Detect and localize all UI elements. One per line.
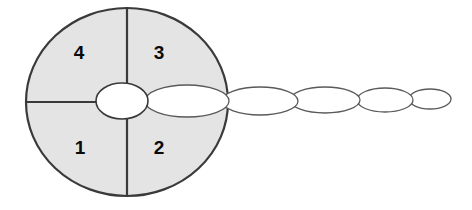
tail-segment-5 (409, 89, 451, 109)
quadrant-circle-diagram: 4 3 1 2 (0, 0, 472, 210)
quadrant-label-1: 1 (75, 137, 86, 158)
quadrant-label-2: 2 (154, 137, 165, 158)
tail-segment-1 (145, 85, 229, 117)
tail-segment-2 (222, 87, 298, 115)
tail-segment-4 (357, 88, 413, 112)
tail-segment-group (145, 85, 451, 117)
quadrant-label-3: 3 (154, 42, 165, 63)
quadrant-label-4: 4 (74, 42, 85, 63)
tail-segment-3 (290, 87, 360, 113)
diagram-root: 4 3 1 2 (0, 0, 472, 210)
center-node-ellipse (96, 83, 148, 119)
